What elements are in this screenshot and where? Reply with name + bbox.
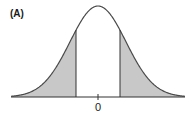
normal-distribution-diagram: 0 (A) bbox=[0, 0, 194, 119]
right-tail-shaded-region bbox=[120, 30, 185, 97]
panel-label: (A) bbox=[10, 8, 24, 19]
bell-curve bbox=[11, 6, 185, 96]
left-tail-shaded-region bbox=[11, 30, 76, 97]
x-axis-tick-label: 0 bbox=[95, 101, 101, 113]
